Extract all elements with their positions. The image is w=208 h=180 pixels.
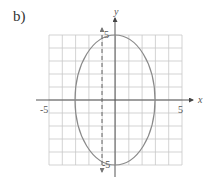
- x-tick-5: 5: [178, 104, 183, 115]
- y-tick-5: 5: [104, 29, 109, 40]
- y-axis-label: y: [113, 6, 119, 17]
- x-axis-label: x: [197, 94, 203, 105]
- y-tick-neg5: -5: [102, 159, 110, 170]
- x-tick-neg5: -5: [40, 104, 48, 115]
- graph: -5 5 5 -5 x y: [0, 0, 208, 180]
